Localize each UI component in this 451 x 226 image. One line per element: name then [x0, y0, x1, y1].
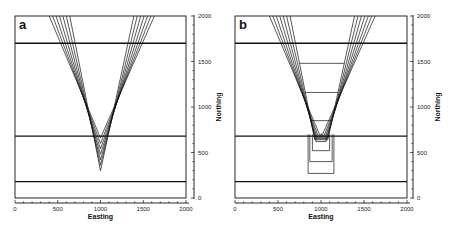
- v-contour-line: [53, 16, 151, 143]
- y-axis-title: Northing: [434, 92, 442, 121]
- y-tick-label: 1500: [417, 59, 431, 65]
- x-tick-label: 1500: [357, 206, 371, 212]
- v-contour-line: [70, 16, 134, 171]
- y-tick-label: 1000: [417, 104, 431, 110]
- y-axis-title: Northing: [215, 92, 223, 121]
- x-tick-label: 1000: [94, 206, 108, 212]
- contour-group: [15, 16, 186, 182]
- y-tick-label: 2000: [417, 13, 431, 19]
- v-contour-line: [59, 16, 144, 154]
- panel-letter: a: [19, 17, 27, 32]
- x-tick-label: 500: [273, 206, 284, 212]
- y-tick-label: 500: [198, 150, 209, 156]
- x-tick-label: 0: [13, 206, 17, 212]
- panel-a: a0500100015002000Easting0500100015002000…: [13, 13, 223, 221]
- u-contour-line: [308, 134, 334, 173]
- y-tick-label: 0: [198, 195, 202, 201]
- x-axis-title: Easting: [88, 213, 113, 221]
- v-contour-line: [276, 16, 368, 136]
- panel-letter: b: [239, 17, 247, 32]
- x-tick-label: 1000: [314, 206, 328, 212]
- panel-b: b0500100015002000Easting0500100015002000…: [233, 13, 442, 221]
- x-tick-label: 500: [53, 206, 64, 212]
- y-tick-label: 500: [417, 150, 428, 156]
- contour-group: [235, 16, 407, 182]
- v-contour-line: [66, 16, 137, 165]
- y-tick-label: 0: [417, 195, 421, 201]
- y-tick-label: 1500: [198, 59, 212, 65]
- x-tick-label: 1500: [137, 206, 151, 212]
- v-contour-line: [56, 16, 147, 149]
- v-contour-line: [280, 16, 365, 137]
- figure-canvas: a0500100015002000Easting0500100015002000…: [0, 0, 451, 226]
- x-tick-label: 0: [233, 206, 237, 212]
- x-tick-label: 2000: [179, 206, 193, 212]
- y-tick-label: 1000: [198, 104, 212, 110]
- y-tick-label: 2000: [198, 13, 212, 19]
- x-axis-title: Easting: [308, 213, 333, 221]
- x-tick-label: 2000: [400, 206, 414, 212]
- u-contour-line: [310, 134, 332, 161]
